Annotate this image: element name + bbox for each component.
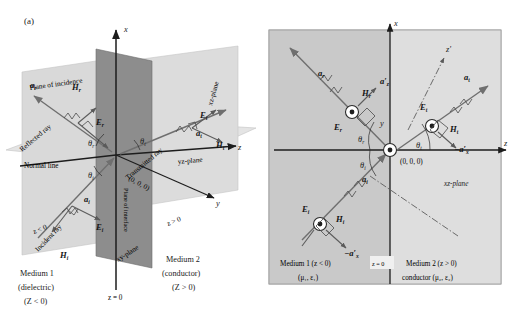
z-axis-label-a: z	[237, 143, 242, 152]
y-axis-label-a: y	[215, 199, 220, 208]
medium2-region-b	[390, 30, 501, 284]
medium1-region-b	[269, 30, 390, 284]
z-positive-label-a: z > 0	[166, 215, 183, 228]
xz-plane-label-b: xz-plane	[443, 180, 469, 188]
panel-a-caption: (a)	[24, 16, 34, 26]
y-axis-label-b: y	[379, 119, 384, 128]
medium1-label-b-line2: (μ₁, ε₁)	[298, 274, 319, 282]
panel-b: (b)	[258, 0, 519, 331]
origin-label-b: (0, 0, 0)	[400, 158, 423, 166]
panel-a-diagram: Plane of incidence xz-plane yz-plane xy-…	[0, 0, 262, 331]
Hi-label-a: Hi	[59, 250, 69, 261]
medium1-label-b-line1: Medium 1 (z < 0)	[280, 260, 331, 268]
medium2-label-a-line2: (conductor)	[162, 269, 200, 278]
plane-of-interface-label-1: Plane of interface	[123, 188, 130, 232]
z-zero-label-b: z = 0	[372, 260, 384, 267]
z-zero-label-a: z = 0	[108, 294, 123, 302]
Hr-out-of-page-dot	[350, 110, 355, 115]
origin-out-of-page-dot	[388, 148, 393, 153]
panel-b-diagram: x z y z' ar Hr a′z Er at Et Ht −a′x ai E…	[258, 0, 519, 331]
x-axis-label-b: x	[393, 19, 398, 28]
medium1-label-a-line3: (Z < 0)	[24, 297, 48, 306]
figure-container: (a)	[0, 0, 519, 331]
medium2-label-b-line1: Medium 2 (z > 0)	[406, 260, 457, 268]
panel-a: (a)	[0, 0, 262, 331]
medium2-label-a-line3: (Z > 0)	[172, 283, 196, 292]
medium2-label-a-line1: Medium 2	[166, 255, 200, 264]
medium2-label-b-line2: conductor (μ₂, ε₂)	[402, 274, 453, 282]
z-axis-label-b: z	[503, 139, 508, 148]
medium1-label-a-line2: (dielectric)	[18, 283, 54, 292]
z-prime-label-b: z'	[445, 45, 451, 54]
medium1-label-a-line1: Medium 1	[20, 269, 54, 278]
x-axis-label-a: x	[123, 25, 128, 34]
normal-line-label: Normal line	[24, 162, 59, 170]
